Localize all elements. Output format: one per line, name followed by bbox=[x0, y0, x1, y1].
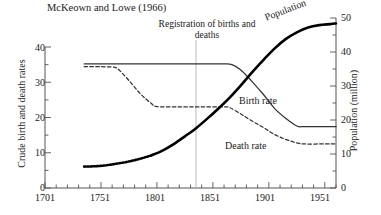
plot-area bbox=[0, 0, 381, 215]
chart-figure: McKeown and Lowe (1966) Registration of … bbox=[0, 0, 381, 215]
axis-ticks bbox=[45, 18, 336, 188]
data-series-lines bbox=[84, 23, 336, 166]
axis-lines bbox=[45, 18, 336, 188]
